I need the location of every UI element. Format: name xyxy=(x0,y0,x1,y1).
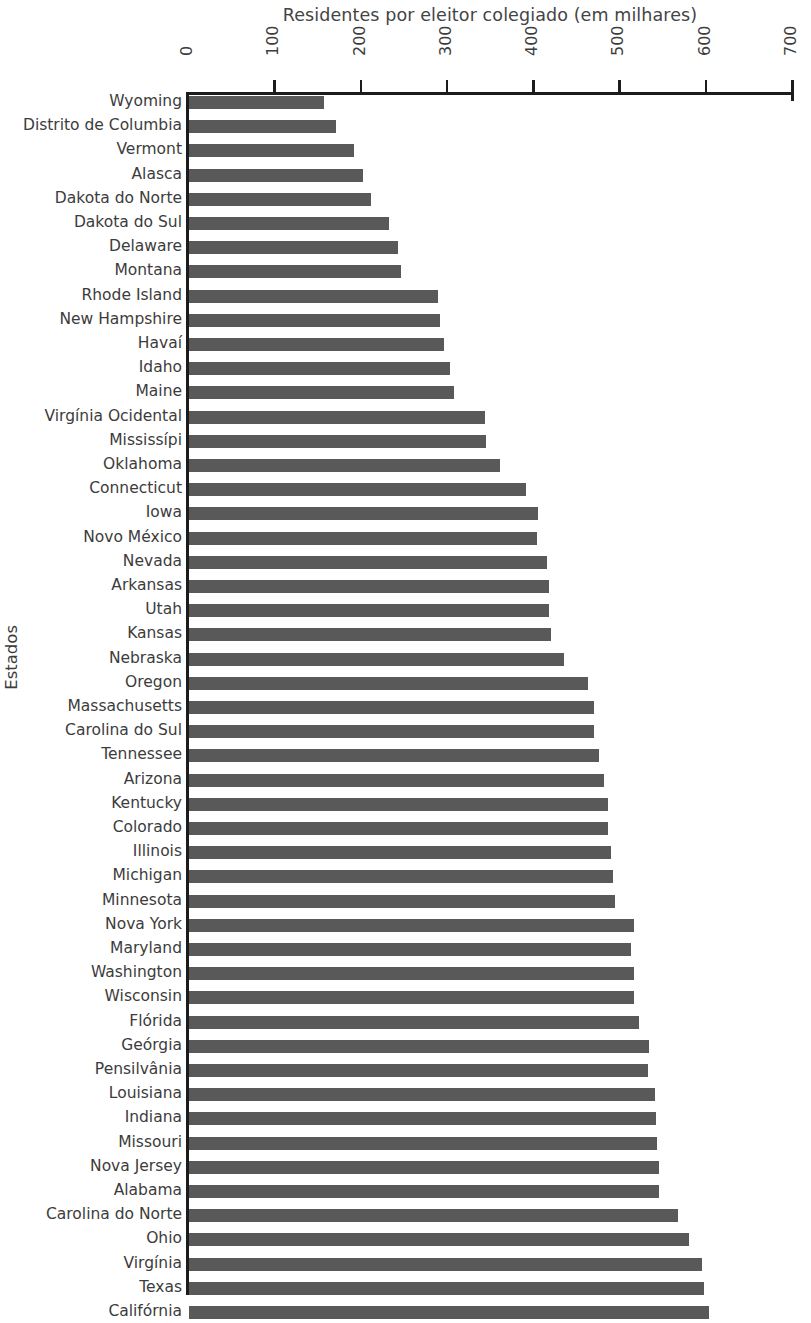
y-axis-category-label: Novo México xyxy=(83,529,182,545)
y-axis-category-label: Nevada xyxy=(123,553,182,569)
y-axis-category-label: Vermont xyxy=(116,141,182,157)
bar xyxy=(189,193,371,206)
bar-row: Delaware xyxy=(0,238,811,262)
y-axis-category-label: Califórnia xyxy=(108,1303,182,1319)
x-axis-tick xyxy=(532,80,535,93)
bar-row: Nebraska xyxy=(0,650,811,674)
bar xyxy=(189,1258,702,1271)
bar xyxy=(189,580,549,593)
y-axis-category-label: Kentucky xyxy=(111,795,182,811)
bar xyxy=(189,96,324,109)
bar-row: Carolina do Norte xyxy=(0,1206,811,1230)
x-axis-tick xyxy=(705,80,708,93)
bar-row: Alabama xyxy=(0,1182,811,1206)
y-axis-category-label: New Hampshire xyxy=(59,311,182,327)
bar-row: Alasca xyxy=(0,166,811,190)
y-axis-category-label: Texas xyxy=(139,1279,182,1295)
y-axis-category-label: Utah xyxy=(145,601,182,617)
bar xyxy=(189,1016,639,1029)
bar xyxy=(189,241,398,254)
y-axis-category-label: Alabama xyxy=(114,1182,182,1198)
y-axis-category-label: Pensilvânia xyxy=(95,1061,182,1077)
bar xyxy=(189,338,444,351)
bar xyxy=(189,701,594,714)
y-axis-category-label: Illinois xyxy=(133,843,182,859)
bar xyxy=(189,677,588,690)
x-axis-tick-label: 600 xyxy=(696,25,714,56)
y-axis-category-label: Nova York xyxy=(105,916,182,932)
x-axis-tick-label: 700 xyxy=(782,25,800,56)
bar xyxy=(189,967,634,980)
y-axis-category-label: Carolina do Sul xyxy=(65,722,182,738)
bar xyxy=(189,1185,659,1198)
bar xyxy=(189,870,613,883)
bar-row: Washington xyxy=(0,964,811,988)
bar xyxy=(189,846,611,859)
bar-row: Connecticut xyxy=(0,480,811,504)
y-axis-category-label: Wisconsin xyxy=(105,988,182,1004)
bar xyxy=(189,798,608,811)
bar xyxy=(189,144,354,157)
y-axis-category-label: Arizona xyxy=(124,771,182,787)
bar-row: Nova York xyxy=(0,916,811,940)
bar-row: Arkansas xyxy=(0,577,811,601)
bar-row: Louisiana xyxy=(0,1085,811,1109)
y-axis-category-label: Virgínia xyxy=(124,1255,182,1271)
x-axis-tick xyxy=(446,80,449,93)
y-axis-category-label: Washington xyxy=(91,964,182,980)
y-axis-category-label: Idaho xyxy=(139,359,182,375)
bar-row: Havaí xyxy=(0,335,811,359)
bar-row: Montana xyxy=(0,262,811,286)
bar xyxy=(189,919,634,932)
x-axis-tick-label: 500 xyxy=(609,25,627,56)
bar xyxy=(189,169,363,182)
y-axis-category-label: Maine xyxy=(135,383,182,399)
bar xyxy=(189,290,438,303)
y-axis-category-label: Oklahoma xyxy=(103,456,182,472)
y-axis-category-label: Louisiana xyxy=(109,1085,182,1101)
bar xyxy=(189,1209,678,1222)
bar-row: Vermont xyxy=(0,141,811,165)
bar xyxy=(189,459,500,472)
bar xyxy=(189,483,526,496)
bar-row: Indiana xyxy=(0,1109,811,1133)
bar-row: Arizona xyxy=(0,771,811,795)
bar-row: Mississípi xyxy=(0,432,811,456)
y-axis-category-label: Iowa xyxy=(146,504,182,520)
bar-row: Iowa xyxy=(0,504,811,528)
bar-row: Texas xyxy=(0,1279,811,1303)
y-axis-category-label: Minnesota xyxy=(102,892,182,908)
bar xyxy=(189,774,604,787)
bar xyxy=(189,1088,655,1101)
bar-row: Ohio xyxy=(0,1230,811,1254)
bar-row: Rhode Island xyxy=(0,287,811,311)
x-axis-tick-label: 0 xyxy=(178,46,196,56)
bar xyxy=(189,314,440,327)
bar xyxy=(189,556,547,569)
bar-row: Virgínia xyxy=(0,1255,811,1279)
y-axis-category-label: Dakota do Norte xyxy=(55,190,182,206)
bar-row: Minnesota xyxy=(0,892,811,916)
bar xyxy=(189,1040,649,1053)
y-axis-category-label: Connecticut xyxy=(89,480,182,496)
y-axis-category-label: Havaí xyxy=(138,335,182,351)
bar-row: Wyoming xyxy=(0,93,811,117)
y-axis-category-label: Missouri xyxy=(118,1134,182,1150)
bar-row: Califórnia xyxy=(0,1303,811,1323)
y-axis-category-label: Distrito de Columbia xyxy=(23,117,182,133)
y-axis-category-label: Nebraska xyxy=(109,650,182,666)
bar-row: Novo México xyxy=(0,529,811,553)
bar xyxy=(189,1233,689,1246)
bar xyxy=(189,943,631,956)
y-axis-category-label: Colorado xyxy=(113,819,182,835)
y-axis-category-label: Ohio xyxy=(146,1230,182,1246)
y-axis-category-label: Kansas xyxy=(127,625,182,641)
bar-row: Michigan xyxy=(0,867,811,891)
bar-row: Maine xyxy=(0,383,811,407)
x-axis-tick xyxy=(273,80,276,93)
bar-row: Tennessee xyxy=(0,746,811,770)
y-axis-category-label: Nova Jersey xyxy=(90,1158,182,1174)
bar-row: Geórgia xyxy=(0,1037,811,1061)
bar-row: Colorado xyxy=(0,819,811,843)
y-axis-category-label: Delaware xyxy=(109,238,182,254)
